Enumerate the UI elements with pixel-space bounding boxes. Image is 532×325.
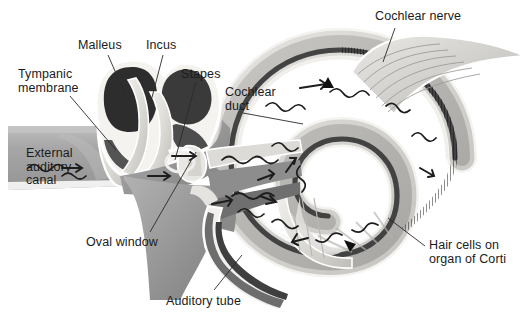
label-oval-window: Oval window bbox=[86, 236, 158, 250]
label-incus: Incus bbox=[146, 39, 176, 53]
label-malleus: Malleus bbox=[78, 39, 122, 53]
label-cochlear-nerve: Cochlear nerve bbox=[375, 10, 461, 24]
label-external-auditory-canal: External auditory canal bbox=[26, 147, 73, 188]
label-tympanic-membrane: Tympanic membrane bbox=[18, 68, 79, 95]
label-auditory-tube: Auditory tube bbox=[166, 295, 241, 309]
label-hair-cells-organ-of-corti: Hair cells on organ of Corti bbox=[429, 239, 506, 266]
label-stapes: Stapes bbox=[181, 68, 221, 82]
label-cochlear-duct: Cochlear duct bbox=[225, 86, 276, 113]
ear-anatomy-diagram: Tympanic membrane Malleus Incus Stapes C… bbox=[0, 0, 532, 325]
leader-cochlear-duct bbox=[243, 113, 303, 124]
